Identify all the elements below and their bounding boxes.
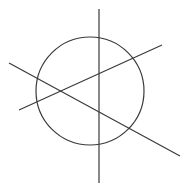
geometry-diagram — [0, 0, 189, 190]
ascending-line — [19, 45, 162, 110]
diagram-svg — [0, 0, 189, 190]
circle — [36, 37, 144, 145]
descending-line — [9, 63, 180, 156]
